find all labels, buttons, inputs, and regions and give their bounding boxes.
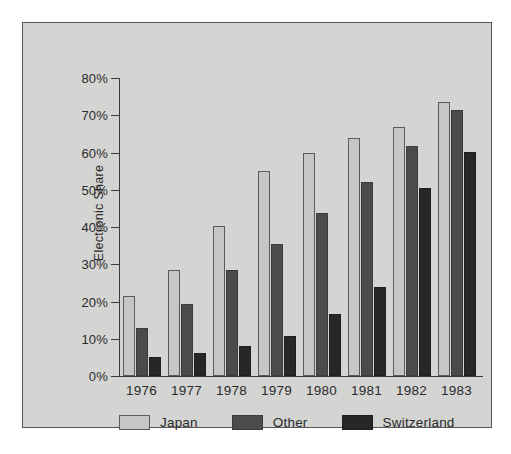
y-axis-tick-mark (111, 302, 119, 303)
bar-japan-1980 (303, 153, 315, 376)
y-axis-tick-label: 70% (81, 108, 108, 123)
y-axis-tick-label: 20% (81, 294, 108, 309)
x-axis-label: 1977 (171, 383, 202, 398)
bar-other-1982 (406, 146, 418, 376)
y-axis-tick-label: 60% (81, 145, 108, 160)
y-axis-tick-mark (111, 115, 119, 116)
bar-other-1979 (271, 244, 283, 376)
y-axis-tick-label: 10% (81, 331, 108, 346)
bar-japan-1982 (393, 127, 405, 376)
bar-japan-1976 (123, 296, 135, 376)
y-axis-tick-label: 40% (81, 220, 108, 235)
bar-japan-1977 (168, 270, 180, 376)
bar-group (389, 78, 434, 376)
x-axis-label: 1978 (216, 383, 247, 398)
bar-group (209, 78, 254, 376)
legend-label: Other (273, 415, 308, 430)
bar-other-1981 (361, 182, 373, 376)
bar-other-1976 (136, 328, 148, 376)
y-axis-tick-mark (111, 227, 119, 228)
y-axis-title-container: Electronic Share (23, 63, 79, 363)
y-axis-tick-mark (111, 339, 119, 340)
x-axis-label: 1976 (126, 383, 157, 398)
chart-figure: Electronic Share 0%10%20%30%40%50%60%70%… (0, 0, 511, 454)
bar-other-1978 (226, 270, 238, 376)
y-axis-tick-label: 0% (89, 369, 108, 384)
y-axis-tick-label: 80% (81, 71, 108, 86)
y-axis-tick-label: 50% (81, 182, 108, 197)
legend-label: Switzerland (383, 415, 455, 430)
legend-swatch-other (232, 415, 263, 430)
bar-switzerland-1978 (239, 346, 251, 376)
chart-legend: JapanOtherSwitzerland (119, 415, 455, 430)
legend-item-other[interactable]: Other (232, 415, 308, 430)
bar-switzerland-1976 (149, 357, 161, 376)
bar-japan-1983 (438, 102, 450, 376)
legend-swatch-switzerland (342, 415, 373, 430)
bar-switzerland-1981 (374, 287, 386, 376)
x-axis-label: 1982 (396, 383, 427, 398)
x-axis-line (111, 376, 483, 377)
y-axis-tick-label: 30% (81, 257, 108, 272)
bar-japan-1978 (213, 226, 225, 376)
bar-group (164, 78, 209, 376)
y-axis-title: Electronic Share (92, 165, 106, 262)
legend-item-japan[interactable]: Japan (119, 415, 198, 430)
x-axis-label: 1980 (306, 383, 337, 398)
bar-switzerland-1983 (464, 152, 476, 376)
bar-other-1980 (316, 213, 328, 376)
y-axis-tick-mark (111, 78, 119, 79)
bar-group (254, 78, 299, 376)
bar-switzerland-1982 (419, 188, 431, 376)
bar-group (119, 78, 164, 376)
y-axis-tick-mark (111, 153, 119, 154)
x-axis-label: 1983 (441, 383, 472, 398)
y-axis-tick-mark (111, 264, 119, 265)
bar-japan-1979 (258, 171, 270, 376)
x-axis-label: 1979 (261, 383, 292, 398)
x-axis-label: 1981 (351, 383, 382, 398)
legend-item-switzerland[interactable]: Switzerland (342, 415, 455, 430)
bar-other-1977 (181, 304, 193, 376)
bar-group (434, 78, 479, 376)
bar-group (299, 78, 344, 376)
bar-other-1983 (451, 110, 463, 376)
bar-switzerland-1977 (194, 353, 206, 376)
y-axis-tick-mark (111, 190, 119, 191)
plot-area: 0%10%20%30%40%50%60%70%80% (119, 78, 479, 376)
chart-panel: Electronic Share 0%10%20%30%40%50%60%70%… (22, 22, 492, 428)
legend-label: Japan (160, 415, 198, 430)
bar-switzerland-1979 (284, 336, 296, 376)
bar-japan-1981 (348, 138, 360, 376)
bar-group (344, 78, 389, 376)
bar-switzerland-1980 (329, 314, 341, 376)
legend-swatch-japan (119, 415, 150, 430)
y-axis-tick-mark (111, 376, 119, 377)
